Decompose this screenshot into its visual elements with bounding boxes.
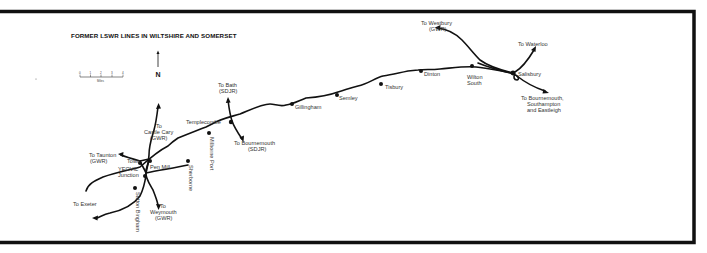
station-milborne-port — [207, 131, 211, 135]
arrow-exeter-icon — [92, 216, 98, 221]
station-yeovil-junction — [143, 174, 147, 178]
station-dinton — [419, 69, 423, 73]
svg-text:4: 4 — [122, 71, 124, 75]
label-gillingham: Gillingham — [295, 104, 322, 110]
railway-map: FORMER LSWR LINES IN WILTSHIRE AND SOMER… — [0, 0, 707, 253]
svg-text:0: 0 — [79, 71, 81, 75]
label-to-bournemouth-sdjr-2: (SDJR) — [248, 146, 266, 152]
arrow-bournemouth-east-icon — [543, 89, 550, 94]
north-label: N — [156, 71, 161, 78]
label-to-bath-2: (SDJR) — [219, 88, 237, 94]
label-yeovil-2: Junction — [118, 172, 139, 178]
station-salisbury — [511, 71, 516, 76]
label-tisbury: Tisbury — [385, 84, 403, 90]
label-templecombe: Templecombe — [186, 119, 221, 125]
label-salisbury: Salisbury — [518, 71, 541, 77]
line-sdjr — [228, 100, 242, 139]
label-to-westbury-2: (GWR) — [429, 26, 447, 32]
label-milborne-port: Milborne Port — [209, 137, 215, 171]
label-dinton: Dinton — [424, 71, 440, 77]
label-sherborne: Sherborne — [188, 165, 194, 191]
label-town: Town — [127, 158, 140, 164]
label-sutton-bingham: Sutton Bingham — [135, 192, 141, 232]
label-to-exeter: To Exeter — [73, 201, 97, 207]
label-to-taunton-2: (GWR) — [90, 158, 108, 164]
map-frame — [0, 12, 694, 243]
station-gillingham — [290, 102, 294, 106]
arrow-castle-cary-icon — [156, 103, 161, 109]
scale-unit: Miles — [97, 79, 105, 83]
arrow-taunton-icon — [118, 152, 124, 157]
station-sherborne — [186, 159, 190, 163]
station-templecombe — [229, 120, 233, 124]
svg-text:1: 1 — [90, 71, 92, 75]
svg-text:3: 3 — [111, 71, 113, 75]
scale-bar: 0 1 2 3 4 Miles — [79, 71, 124, 83]
label-pen-mill: Pen Mill — [150, 164, 170, 170]
label-to-bournemouth-east-3: and Eastleigh — [527, 107, 561, 113]
label-to-weymouth-3: (GWR) — [155, 215, 173, 221]
station-wilton-south — [470, 64, 474, 68]
station-sutton-bingham — [133, 186, 137, 190]
arrow-bath-icon — [226, 97, 231, 103]
line-to-waterloo — [515, 50, 534, 72]
station-tisbury — [379, 82, 383, 86]
north-arrow-icon: N — [156, 51, 161, 79]
label-semley: Semley — [339, 95, 358, 101]
svg-text:2: 2 — [100, 71, 102, 75]
label-wilton-south-2: South — [467, 80, 482, 86]
speck — [36, 79, 37, 80]
line-to-bournemouth-southampton — [517, 76, 545, 91]
label-to-castle-cary-3: (GWR) — [150, 135, 168, 141]
map-title: FORMER LSWR LINES IN WILTSHIRE AND SOMER… — [71, 32, 237, 39]
station-pen-mill — [148, 159, 152, 163]
label-to-waterloo: To Waterloo — [518, 41, 548, 47]
